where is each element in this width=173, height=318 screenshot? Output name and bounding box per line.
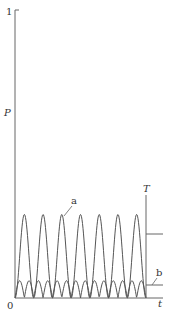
x-axis-label: t	[158, 299, 162, 309]
curve-a	[15, 215, 146, 299]
chart-plot	[0, 0, 173, 318]
y-axis-label: P	[4, 108, 11, 118]
curve-b	[15, 281, 146, 298]
t-marker-label: T	[143, 184, 150, 194]
origin-label: 0	[7, 301, 13, 311]
leader-b	[152, 278, 157, 285]
y-top-label: 1	[6, 7, 12, 17]
curve-b-label: b	[156, 268, 162, 278]
leader-a	[64, 206, 72, 216]
curve-a-label: a	[71, 196, 77, 206]
